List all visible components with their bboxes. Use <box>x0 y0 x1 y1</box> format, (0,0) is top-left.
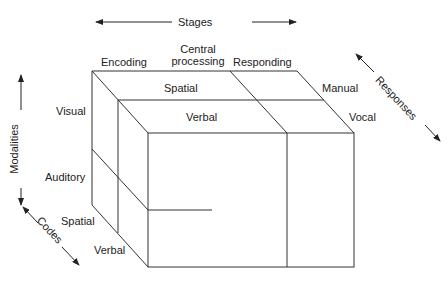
modalities-axis-label: Modalities <box>8 124 20 174</box>
stage-responding: Responding <box>233 56 292 68</box>
code-verbal-left: Verbal <box>94 244 125 256</box>
modality-auditory: Auditory <box>45 171 85 183</box>
stage-encoding: Encoding <box>101 56 147 68</box>
response-vocal: Vocal <box>349 111 376 123</box>
modality-visual: Visual <box>56 105 86 117</box>
code-verbal-top: Verbal <box>186 111 217 123</box>
stage-central-processing: Central processing <box>168 43 228 67</box>
code-spatial-top: Spatial <box>164 82 198 94</box>
stages-axis-label: Stages <box>178 16 212 28</box>
code-spatial-left: Spatial <box>61 215 95 227</box>
response-manual: Manual <box>322 82 358 94</box>
